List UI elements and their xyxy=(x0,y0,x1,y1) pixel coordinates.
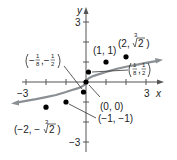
svg-text:2: 2 xyxy=(51,61,55,67)
x-tick-neg3: −3 xyxy=(17,88,29,99)
curve-arrow-right-icon xyxy=(155,58,163,64)
point-1 xyxy=(103,59,108,64)
svg-text:,: , xyxy=(138,64,141,75)
axes xyxy=(22,12,160,152)
label-1-1: (1, 1) xyxy=(93,45,116,56)
svg-text:2: 2 xyxy=(142,70,146,76)
point-eighth xyxy=(86,69,91,74)
x-axis-label: x xyxy=(155,88,162,99)
point-neg1 xyxy=(63,99,68,104)
label-origin: (0, 0) xyxy=(100,101,123,112)
point-neg-eighth xyxy=(81,89,86,94)
y-tick-3: 3 xyxy=(75,17,81,28)
label-2-cbrt2: (2, 3 2 ) xyxy=(118,32,150,49)
svg-text:−: − xyxy=(29,55,35,66)
svg-text:(−2, −: (−2, − xyxy=(14,124,40,135)
point-neg2 xyxy=(43,105,48,110)
label-eighth-half: 1 8 , 1 2 xyxy=(129,62,150,77)
svg-text:(2,: (2, xyxy=(118,38,130,49)
y-axis-label: y xyxy=(76,5,83,16)
point-origin xyxy=(83,79,88,84)
svg-text:,−: ,− xyxy=(41,55,50,66)
point-2 xyxy=(123,54,128,59)
svg-text:2 ): 2 ) xyxy=(49,124,61,135)
label-neg-eighth-half: − 1 8 ,− 1 2 xyxy=(26,53,60,68)
x-axis-arrow-icon xyxy=(157,80,164,85)
cube-root-graph: y 3 −3 −3 3 x (1, 1) (0, 0) (−1, −1) (2,… xyxy=(0,0,177,160)
svg-text:2 ): 2 ) xyxy=(138,38,150,49)
y-tick-neg3: −3 xyxy=(69,137,81,148)
svg-text:8: 8 xyxy=(36,61,40,67)
label-neg2-cbrt2: (−2, − 3 2 ) xyxy=(14,119,61,135)
svg-text:1: 1 xyxy=(51,53,55,59)
svg-text:1: 1 xyxy=(36,53,40,59)
svg-text:8: 8 xyxy=(133,70,137,76)
x-tick-3: 3 xyxy=(144,88,150,99)
label-neg1: (−1, −1) xyxy=(98,113,133,124)
curve-arrow-left-icon xyxy=(11,100,19,106)
y-axis-arrow-icon xyxy=(84,7,89,14)
